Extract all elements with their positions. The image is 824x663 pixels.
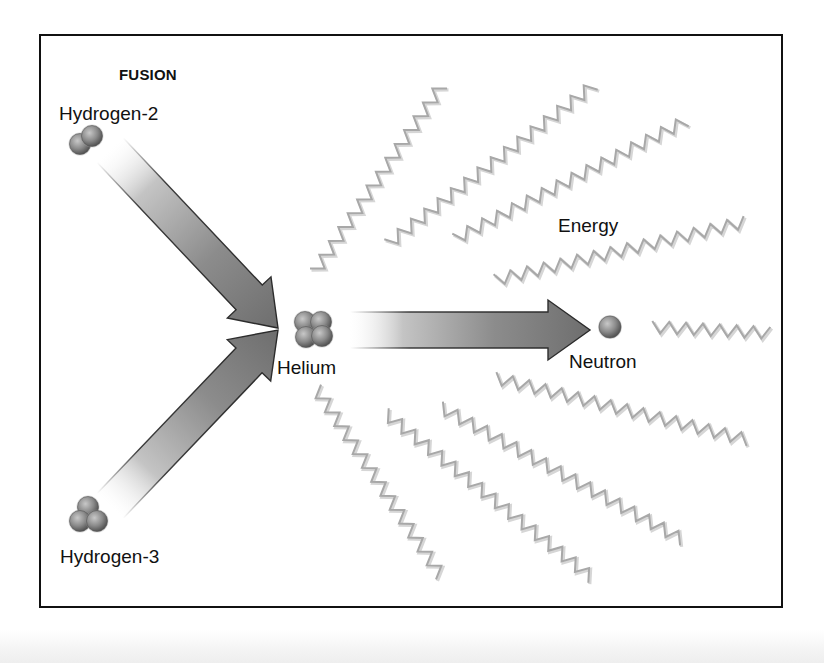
hydrogen-3-label: Hydrogen-3 [60, 547, 159, 566]
energy-wave [496, 372, 748, 447]
helium-label: Helium [277, 358, 336, 377]
hydrogen-3-nucleus [69, 496, 109, 533]
energy-label: Energy [558, 216, 618, 235]
reaction-arrow [88, 309, 299, 526]
hydrogen-2-label: Hydrogen-2 [59, 104, 158, 123]
reaction-arrows [88, 129, 590, 526]
fusion-diagram: FUSION Hydrogen-2 Hydrogen-3 Helium Neut… [0, 0, 824, 663]
hydrogen-2-nucleus [69, 125, 104, 156]
page-bottom-shading [0, 630, 824, 663]
energy-wave [443, 402, 682, 547]
neutron-particle [598, 315, 622, 339]
neutron-label: Neutron [569, 352, 637, 371]
diagram-title: FUSION [119, 67, 177, 82]
energy-wave [494, 216, 745, 285]
energy-wave [310, 88, 449, 270]
energy-wave [652, 321, 772, 340]
reaction-arrow [88, 129, 300, 348]
reaction-arrow [350, 300, 590, 360]
helium-nucleus [294, 311, 334, 349]
energy-wave [316, 385, 443, 581]
